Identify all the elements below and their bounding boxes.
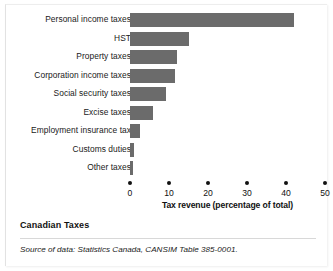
bar-category-label: HST: [11, 33, 131, 43]
bar-track: [130, 161, 325, 175]
bar-row: Social security taxes: [6, 87, 328, 104]
bar-row: Other taxes: [6, 161, 328, 178]
bar-category-label: Other taxes: [11, 162, 131, 172]
bar-category-label: Personal income taxes: [11, 14, 131, 24]
x-axis-tick-marker: [323, 181, 327, 185]
x-axis-tick-label: 0: [115, 188, 145, 198]
x-axis-tick-label: 30: [232, 188, 262, 198]
bar-track: [130, 143, 325, 157]
figure-caption-title: Canadian Taxes: [20, 220, 89, 230]
figure-card: Personal income taxesHSTProperty taxesCo…: [5, 4, 327, 266]
bar-track: [130, 124, 325, 138]
x-axis-tick-label: 20: [193, 188, 223, 198]
bar-track: [130, 50, 325, 64]
x-axis-tick-marker: [245, 181, 249, 185]
bar-track: [130, 13, 325, 27]
bar-category-label: Property taxes: [11, 51, 131, 61]
caption-divider: [20, 238, 316, 239]
bar-fill: [130, 13, 294, 27]
bar-row: Personal income taxes: [6, 13, 328, 30]
bar-category-label: Excise taxes: [11, 107, 131, 117]
x-axis-tick-label: 10: [154, 188, 184, 198]
x-axis-title: Tax revenue (percentage of total): [130, 200, 325, 210]
bar-fill: [130, 50, 177, 64]
bar-track: [130, 106, 325, 120]
bar-track: [130, 32, 325, 46]
bar-track: [130, 69, 325, 83]
bar-chart-plot-area: Personal income taxesHSTProperty taxesCo…: [6, 13, 328, 181]
bar-row: Customs duties: [6, 143, 328, 160]
bar-category-label: Corporation income taxes: [11, 70, 131, 80]
bar-category-label: Customs duties: [11, 144, 131, 154]
x-axis-tick-label: 50: [310, 188, 333, 198]
bar-track: [130, 87, 325, 101]
bar-row: Employment insurance tax: [6, 124, 328, 141]
bar-fill: [130, 106, 153, 120]
x-axis-tick-marker: [167, 181, 171, 185]
x-axis-tick-marker: [284, 181, 288, 185]
bar-fill: [130, 161, 133, 175]
bar-fill: [130, 69, 175, 83]
figure-source-note: Source of data: Statistics Canada, CANSI…: [20, 245, 238, 254]
x-axis-tick-marker: [128, 181, 132, 185]
x-axis-tick-marker: [206, 181, 210, 185]
bar-row: HST: [6, 32, 328, 49]
bar-fill: [130, 124, 140, 138]
x-axis: Tax revenue (percentage of total) 010203…: [130, 181, 325, 221]
bar-fill: [130, 32, 189, 46]
bar-row: Property taxes: [6, 50, 328, 67]
x-axis-tick-label: 40: [271, 188, 301, 198]
bar-category-label: Employment insurance tax: [11, 125, 131, 135]
bar-fill: [130, 87, 166, 101]
bar-category-label: Social security taxes: [11, 88, 131, 98]
bar-row: Corporation income taxes: [6, 69, 328, 86]
bar-fill: [130, 143, 134, 157]
bar-row: Excise taxes: [6, 106, 328, 123]
